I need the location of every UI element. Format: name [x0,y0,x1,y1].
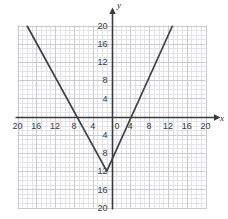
x-tick-label: 16 [182,121,192,131]
y-tick-label: 16 [97,185,107,195]
y-tick-label: 20 [97,203,107,213]
y-tick-label: 8 [102,148,107,158]
x-tick-label: 16 [31,121,41,131]
x-tick-label: 20 [200,121,210,131]
coordinate-graph: 201612840481216202016128448121620 xy [0,0,228,219]
x-tick-label: 20 [12,121,22,131]
y-tick-label: 12 [97,57,107,67]
x-axis-label: x [219,113,224,123]
y-tick-label: 16 [97,39,107,49]
x-tick-label: 8 [71,121,76,131]
x-tick-label: 12 [50,121,60,131]
x-tick-label: 8 [147,121,152,131]
graph-canvas: 201612840481216202016128448121620 xy [0,0,228,219]
y-tick-label: 4 [102,94,107,104]
y-tick-label: 4 [102,130,107,140]
x-tick-label: 4 [90,121,95,131]
y-axis-label: y [116,0,121,10]
y-tick-label: 8 [102,75,107,85]
y-tick-label: 20 [97,21,107,31]
x-tick-label: 12 [163,121,173,131]
x-tick-label: 0 [114,121,119,131]
